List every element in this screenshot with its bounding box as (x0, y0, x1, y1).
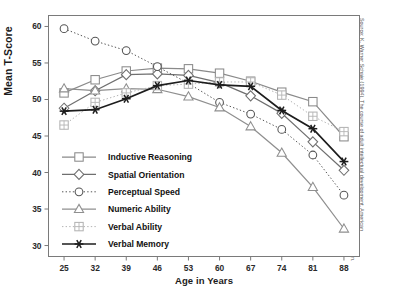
legend-item-spatial-orientation[interactable]: Spatial Orientation (62, 169, 184, 179)
x-tick-label: 81 (308, 263, 318, 273)
y-tick-label: 60 (32, 21, 42, 31)
legend-label: Spatial Orientation (108, 170, 184, 180)
legend-label: Verbal Ability (108, 222, 162, 232)
x-tick-label: 39 (122, 263, 132, 273)
legend-item-perceptual-speed[interactable]: Perceptual Speed (62, 187, 180, 197)
y-tick-label: 45 (32, 131, 42, 141)
y-axis-ticks: 30354045505560 (32, 21, 48, 250)
x-tick-label: 88 (339, 263, 349, 273)
y-tick-label: 55 (32, 58, 42, 68)
x-tick-label: 25 (59, 263, 69, 273)
legend-label: Numeric Ability (108, 204, 171, 214)
legend-item-verbal-ability[interactable]: Verbal Ability (62, 222, 162, 232)
y-tick-label: 40 (32, 168, 42, 178)
legend-label: Verbal Memory (108, 239, 169, 249)
line-chart-plot: 30354045505560 25323946536067748188 Indu… (0, 0, 412, 296)
x-tick-label: 67 (246, 263, 256, 273)
figure-container: Mean T-Score Age in Years Source: K. War… (0, 0, 412, 296)
y-tick-label: 30 (32, 241, 42, 251)
legend-item-inductive-reasoning[interactable]: Inductive Reasoning (62, 152, 192, 162)
x-tick-label: 60 (215, 263, 225, 273)
y-tick-label: 50 (32, 94, 42, 104)
legend-item-numeric-ability[interactable]: Numeric Ability (62, 204, 171, 214)
x-tick-label: 46 (153, 263, 163, 273)
legend-label: Perceptual Speed (108, 187, 180, 197)
plot-frame (49, 16, 360, 257)
x-tick-label: 32 (90, 263, 100, 273)
x-tick-label: 74 (277, 263, 287, 273)
legend-label: Inductive Reasoning (108, 152, 192, 162)
x-axis-ticks: 25323946536067748188 (59, 257, 349, 273)
x-tick-label: 53 (184, 263, 194, 273)
y-tick-label: 35 (32, 204, 42, 214)
